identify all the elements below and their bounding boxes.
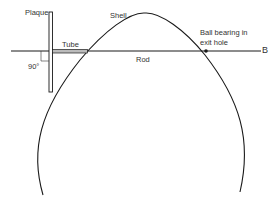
shell-label: Shell [110, 11, 127, 20]
ball-bearing-label-line2: exit hole [200, 38, 228, 47]
tube [53, 50, 88, 54]
plaque [49, 12, 53, 92]
rod-label: Rod [136, 55, 150, 64]
right-angle-marker [41, 51, 49, 61]
ball-bearing-label-line1: Ball bearing in [200, 28, 248, 37]
tube-label: Tube [62, 40, 79, 49]
plaque-label: Plaque [25, 8, 48, 17]
ball-bearing [204, 49, 208, 53]
angle-label: 90° [28, 62, 39, 71]
endpoint-label: B [262, 46, 268, 55]
